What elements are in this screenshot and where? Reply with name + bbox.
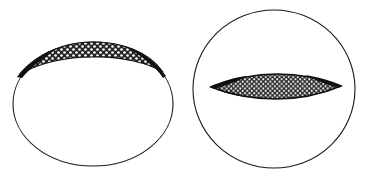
figure-canvas xyxy=(0,0,375,182)
stippled-lens xyxy=(211,74,341,99)
diagram-svg xyxy=(0,0,375,182)
right-circle-figure xyxy=(193,10,355,168)
left-ellipse-figure xyxy=(13,42,173,166)
